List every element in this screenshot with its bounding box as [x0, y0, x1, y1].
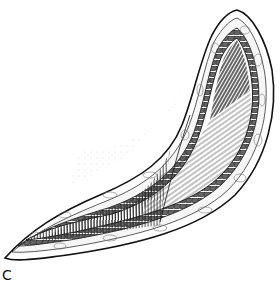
figure-label: C [2, 268, 12, 282]
